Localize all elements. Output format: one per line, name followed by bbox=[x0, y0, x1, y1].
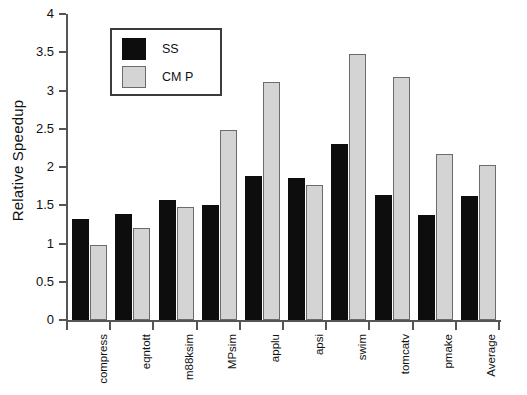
legend-swatch-icon bbox=[122, 38, 146, 60]
x-axis-tick bbox=[368, 322, 370, 330]
x-axis-label-pmake: pmake bbox=[441, 334, 455, 395]
x-axis-label-swim: swim bbox=[355, 334, 369, 395]
bar-average-cmp bbox=[479, 165, 496, 320]
y-axis-tick bbox=[59, 128, 66, 130]
x-axis-label-compress: compress bbox=[96, 334, 110, 395]
y-axis-tick bbox=[59, 13, 66, 15]
bar-mpsim-ss bbox=[202, 205, 219, 320]
bar-pmake-cmp bbox=[436, 154, 453, 320]
y-axis-tick-label: 1 bbox=[14, 237, 54, 250]
bar-applu-ss bbox=[245, 176, 262, 320]
bar-pmake-ss bbox=[418, 215, 435, 320]
legend-item-ss: SS bbox=[122, 38, 179, 60]
legend-label: SS bbox=[162, 42, 179, 56]
y-axis-tick bbox=[59, 281, 66, 283]
y-axis-tick-label: 0.5 bbox=[14, 275, 54, 288]
bar-m88ksim-ss bbox=[159, 200, 176, 320]
bar-apsi-ss bbox=[288, 178, 305, 320]
x-axis-tick bbox=[152, 322, 154, 330]
y-axis-tick bbox=[59, 51, 66, 53]
y-axis-tick-label: 3.5 bbox=[14, 45, 54, 58]
bar-average-ss bbox=[461, 196, 478, 320]
bar-tomcatv-cmp bbox=[393, 77, 410, 320]
y-axis-tick-label: 2.5 bbox=[14, 122, 54, 135]
x-axis-label-mpsim: MPsim bbox=[225, 334, 239, 395]
bar-swim-cmp bbox=[349, 54, 366, 320]
bar-chart: Relative Speedup 00.511.522.533.54 compr… bbox=[0, 0, 527, 395]
y-axis-tick bbox=[59, 90, 66, 92]
y-axis-tick-label: 4 bbox=[14, 7, 54, 20]
bar-compress-cmp bbox=[90, 245, 107, 320]
x-axis-label-apsi: apsi bbox=[312, 334, 326, 395]
y-axis-tick-label: 3 bbox=[14, 84, 54, 97]
y-axis-tick-label: 1.5 bbox=[14, 198, 54, 211]
legend-label: CM P bbox=[162, 70, 193, 84]
x-axis-tick bbox=[239, 322, 241, 330]
bar-tomcatv-ss bbox=[375, 195, 392, 320]
bar-applu-cmp bbox=[263, 82, 280, 320]
legend-item-cm-p: CM P bbox=[122, 66, 193, 88]
x-axis-label-applu: applu bbox=[268, 334, 282, 395]
y-axis-tick bbox=[59, 319, 66, 321]
x-axis-label-m88ksim: m88ksim bbox=[182, 334, 196, 395]
x-axis-tick bbox=[455, 322, 457, 330]
bar-compress-ss bbox=[72, 219, 89, 320]
x-axis-tick bbox=[325, 322, 327, 330]
x-axis-tick bbox=[66, 322, 68, 330]
y-axis-tick-label: 0 bbox=[14, 313, 54, 326]
bar-eqntott-cmp bbox=[133, 228, 150, 320]
y-axis-line bbox=[66, 14, 68, 321]
bar-apsi-cmp bbox=[306, 185, 323, 320]
x-axis-label-eqntott: eqntott bbox=[139, 334, 153, 395]
x-axis-tick bbox=[109, 322, 111, 330]
bar-eqntott-ss bbox=[115, 214, 132, 320]
y-axis-tick bbox=[59, 204, 66, 206]
x-axis-label-average: Average bbox=[484, 334, 498, 395]
bar-mpsim-cmp bbox=[220, 130, 237, 320]
x-axis-tick bbox=[498, 322, 500, 330]
x-axis-tick bbox=[282, 322, 284, 330]
bar-swim-ss bbox=[331, 144, 348, 320]
x-axis-label-tomcatv: tomcatv bbox=[398, 334, 412, 395]
y-axis-tick bbox=[59, 243, 66, 245]
bar-m88ksim-cmp bbox=[177, 207, 194, 320]
x-axis-tick bbox=[196, 322, 198, 330]
x-axis-tick bbox=[412, 322, 414, 330]
legend-swatch-icon bbox=[122, 66, 146, 88]
y-axis-tick bbox=[59, 166, 66, 168]
y-axis-tick-label: 2 bbox=[14, 160, 54, 173]
legend: SSCM P bbox=[110, 28, 222, 96]
